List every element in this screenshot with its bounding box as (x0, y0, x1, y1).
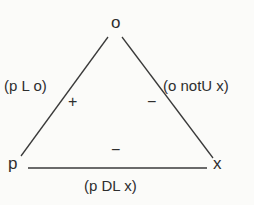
node-o-label: o (111, 14, 120, 31)
edge-o-x-relation: (o notU x) (163, 78, 229, 93)
node-p-label: p (8, 155, 17, 172)
balance-triangle-diagram: o p x (p L o) (o notU x) (p DL x) + − − (0, 0, 254, 205)
edge-o-x-sign: − (147, 94, 156, 110)
node-x-label: x (213, 155, 222, 172)
edge-p-o-relation: (p L o) (4, 78, 47, 93)
edge-p-x-sign: − (111, 142, 120, 158)
triangle-edges (0, 0, 254, 205)
edge-p-o (21, 37, 108, 156)
edge-o-x (122, 37, 213, 158)
edge-p-o-sign: + (68, 94, 77, 110)
edge-p-x-relation: (p DL x) (84, 178, 137, 193)
